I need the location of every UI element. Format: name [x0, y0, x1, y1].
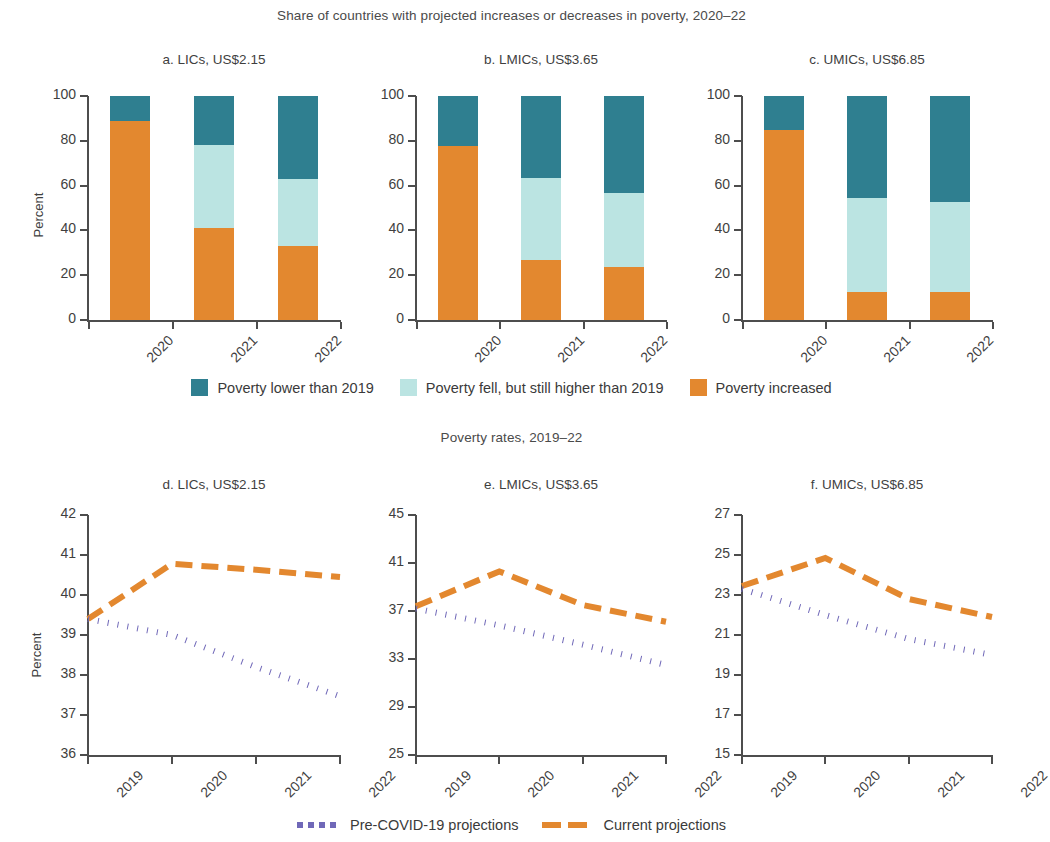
panel-e-line-series[interactable]: Pre-COVID-19 projections: 37.2, 35.8, 34…	[416, 609, 666, 665]
bottom-section-title: Poverty rates, 2019–22	[0, 430, 1023, 445]
panel-a-bar-segment[interactable]	[194, 228, 234, 320]
panel-d-y-tick-label: 41	[32, 545, 76, 561]
panel-e-line-series[interactable]: Current projections: 37.4, 40.3, 37.5, 3…	[416, 571, 666, 621]
panel-e-y-tick-label: 45	[360, 505, 404, 521]
panel-b-y-tickmark	[408, 95, 416, 97]
panel-c-bar-segment[interactable]	[930, 202, 970, 292]
panel-d-x-tick-label: 2019	[113, 767, 146, 800]
panel-e-y-tick-label: 33	[360, 649, 404, 665]
panel-a-bar-segment[interactable]	[194, 96, 234, 145]
panel-b-bar-segment[interactable]	[438, 96, 478, 146]
panel-c-x-tickmark	[825, 322, 827, 329]
panel-a-x-tickmark	[88, 322, 90, 329]
panel-a-bar-segment[interactable]	[278, 96, 318, 179]
panel-a-bar-segment[interactable]	[194, 145, 234, 228]
panel-a-bar-segment[interactable]	[110, 96, 150, 121]
panel-e-y-tickmark	[408, 658, 416, 660]
panel-d-x-tickmark	[87, 757, 89, 764]
panel-f-y-tickmark	[734, 674, 742, 676]
panel-d-y-tickmark	[80, 714, 88, 716]
panel-b-x-tickmark	[666, 322, 668, 329]
panel-a-bar-segment[interactable]	[110, 121, 150, 320]
dash-mark	[568, 822, 587, 828]
panel-a-y-tickmark	[80, 185, 88, 187]
panel-b-bar-segment[interactable]	[604, 267, 644, 320]
panel-b-x-tickmark	[416, 322, 418, 329]
panel-c-x-tick-label: 2020	[797, 332, 830, 365]
panel-a-y-tick-label: 0	[32, 310, 76, 326]
dotted-line-key	[297, 822, 341, 828]
panel-d-y-tick-label: 38	[32, 665, 76, 681]
panel-e-x-tick-label: 2021	[608, 767, 641, 800]
panel-c-y-tickmark	[734, 229, 742, 231]
panel-b-x-tickmark	[499, 322, 501, 329]
panel-f-y-tickmark	[734, 514, 742, 516]
panel-c-x-tickmark	[992, 322, 994, 329]
line-legend-item[interactable]: Current projections	[542, 817, 726, 833]
panel-b-bar-segment[interactable]	[521, 96, 561, 178]
panel-d-x-tick-label: 2022	[365, 767, 398, 800]
panel-e-x-tick-label: 2022	[691, 767, 724, 800]
panel-c-bar-segment[interactable]	[764, 96, 804, 130]
panel-f-x-tick-label: 2022	[1017, 767, 1050, 800]
panel-f-x-axis	[741, 755, 993, 757]
line-legend-label: Pre-COVID-19 projections	[350, 817, 518, 833]
panel-d-y-tickmark	[80, 754, 88, 756]
panel-b-bar-segment[interactable]	[521, 260, 561, 320]
panel-d-line-chart: 363738394041422019202020212022Current pr…	[88, 515, 340, 755]
panel-c-bar-segment[interactable]	[847, 96, 887, 198]
panel-a-title: a. LICs, US$2.15	[88, 52, 340, 67]
panel-d-line-series[interactable]: Current projections: 39.4, 40.78, 40.63,…	[88, 564, 340, 619]
panel-f-line-chart: 151719212325272019202020212022Current pr…	[742, 515, 992, 755]
panel-c-y-tickmark	[734, 140, 742, 142]
panel-e-y-tickmark	[408, 514, 416, 516]
panel-d-series-layer: Current projections: 39.4, 40.78, 40.63,…	[88, 515, 340, 755]
panel-a-y-tickmark	[80, 319, 88, 321]
panel-a-bar-segment[interactable]	[278, 179, 318, 246]
panel-c-bar-segment[interactable]	[930, 292, 970, 320]
panel-c-y-tickmark	[734, 319, 742, 321]
panel-c-x-tick-label: 2021	[880, 332, 913, 365]
panel-c-y-tickmark	[734, 95, 742, 97]
panel-c-bar-segment[interactable]	[930, 96, 970, 202]
panel-a-bar-segment[interactable]	[278, 246, 318, 320]
panel-d-x-tick-label: 2020	[197, 767, 230, 800]
bar-legend-label: Poverty lower than 2019	[217, 380, 373, 396]
panel-b-y-tickmark	[408, 185, 416, 187]
panel-c-bar-segment[interactable]	[847, 198, 887, 292]
panel-b-bar-segment[interactable]	[521, 178, 561, 260]
panel-e-y-tickmark	[408, 754, 416, 756]
panel-f-line-series[interactable]: Current projections: 23.45, 24.85, 22.8,…	[742, 558, 992, 617]
panel-c-bar-segment[interactable]	[764, 130, 804, 320]
panel-c-y-tick-label: 40	[686, 220, 730, 236]
panel-f-line-series[interactable]: Pre-COVID-19 projections: 23.3, 22, 20.8…	[742, 589, 992, 655]
panel-d-y-tickmark	[80, 514, 88, 516]
bar-legend-item[interactable]: Poverty increased	[690, 379, 832, 396]
panel-b-y-tickmark	[408, 274, 416, 276]
panel-c-bar-segment[interactable]	[847, 292, 887, 320]
panel-e-x-tickmark	[415, 757, 417, 764]
panel-a-y-tickmark	[80, 95, 88, 97]
panel-b-bar-segment[interactable]	[438, 146, 478, 320]
panel-a-y-tick-label: 80	[32, 131, 76, 147]
panel-c-x-tick-label: 2022	[963, 332, 996, 365]
line-legend-item[interactable]: Pre-COVID-19 projections	[297, 817, 518, 833]
panel-e-y-tickmark	[408, 610, 416, 612]
panel-a-y-tick-label: 20	[32, 265, 76, 281]
panel-b-x-tick-label: 2022	[637, 332, 670, 365]
panel-f-y-tickmark	[734, 634, 742, 636]
panel-e-x-tickmark	[665, 757, 667, 764]
bar-legend-item[interactable]: Poverty lower than 2019	[191, 379, 373, 396]
panel-b-x-tick-label: 2020	[471, 332, 504, 365]
panel-f-x-tickmark	[824, 757, 826, 764]
panel-f-x-tick-label: 2021	[934, 767, 967, 800]
panel-b-bar-segment[interactable]	[604, 96, 644, 193]
panel-b-bar-segment[interactable]	[604, 193, 644, 267]
panel-e-x-tickmark	[498, 757, 500, 764]
panel-a-bar-chart: 020406080100202020212022	[88, 96, 340, 320]
panel-d-y-tick-label: 40	[32, 585, 76, 601]
panel-e-x-tickmark	[582, 757, 584, 764]
panel-e-title: e. LMICs, US$3.65	[416, 477, 666, 492]
panel-d-line-series[interactable]: Pre-COVID-19 projections: 39.4, 39, 38.2…	[88, 619, 340, 696]
bar-legend-item[interactable]: Poverty fell, but still higher than 2019	[400, 379, 664, 396]
